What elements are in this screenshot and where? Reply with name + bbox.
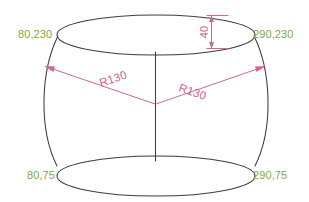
coord-label-top-right: 290,230 xyxy=(253,28,293,40)
coord-label-bottom-right: 290,75 xyxy=(253,169,287,181)
radius-right-arrowhead xyxy=(255,66,266,72)
coord-label-bottom-left: 80,75 xyxy=(27,169,55,181)
radius-left-arrowhead xyxy=(44,66,55,72)
minor-axis-label: 40 xyxy=(198,26,210,39)
cad-drawing-canvas: R130 R130 40 80,230 290,230 80,75 290,75 xyxy=(0,0,309,202)
right-silhouette-arc xyxy=(254,36,268,166)
coord-label-top-left: 80,230 xyxy=(18,28,52,40)
radius-right-leader xyxy=(156,67,263,104)
minor-axis-lower-arrowhead xyxy=(209,42,214,49)
left-silhouette-arc xyxy=(44,36,58,166)
bottom-ellipse xyxy=(57,156,255,196)
radius-right-label: R130 xyxy=(177,82,208,102)
cad-drawing-svg: R130 R130 40 80,230 290,230 80,75 290,75 xyxy=(0,0,309,202)
radius-left-label: R130 xyxy=(98,68,129,88)
